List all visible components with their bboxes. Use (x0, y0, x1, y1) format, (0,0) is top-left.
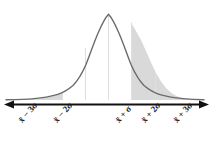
normal-distribution-figure: x̄ − 3σ x̄ − 2σ x̄ + σ x̄ + 2σ x̄ + 3σ (0, 0, 213, 146)
bell-curve-plot (0, 0, 213, 146)
right-tail-shaded-region (131, 23, 204, 100)
axis-right-arrowhead (199, 101, 209, 109)
normal-curve (6, 14, 204, 100)
axis-left-arrowhead (4, 101, 14, 109)
